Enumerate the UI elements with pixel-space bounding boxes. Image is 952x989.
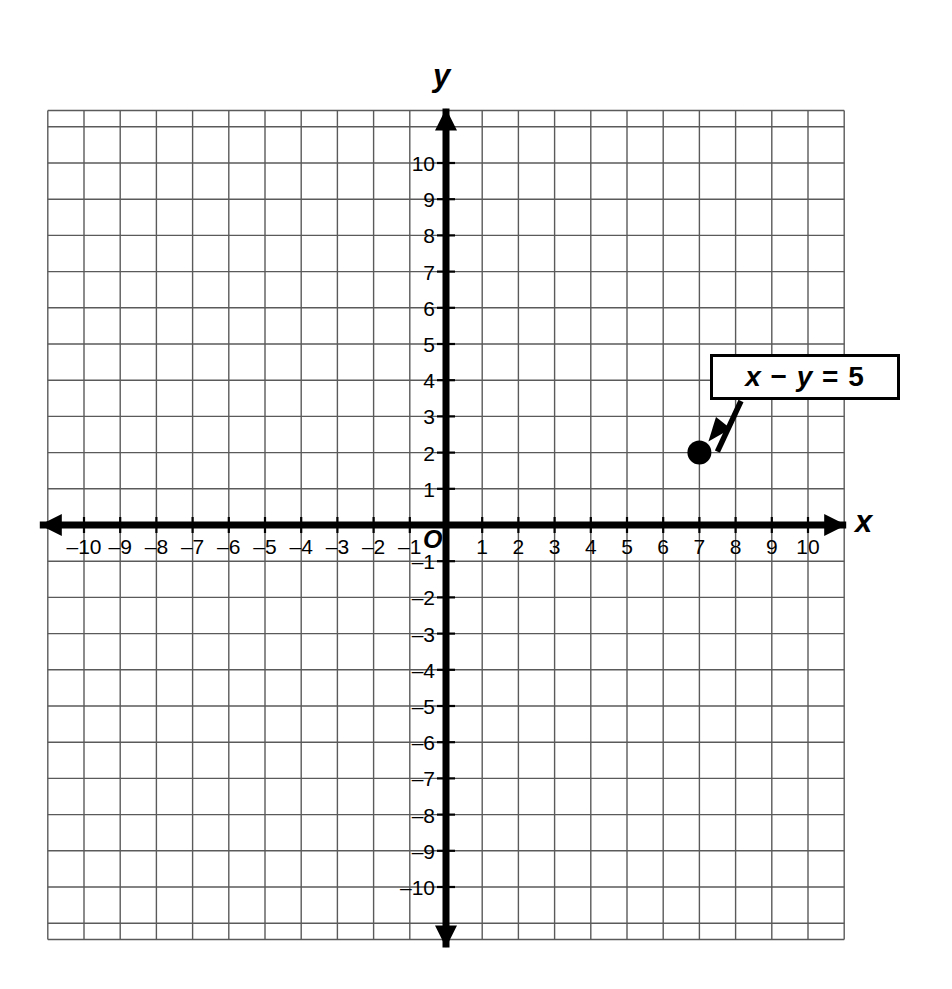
x-tick-label: 3 <box>549 536 561 557</box>
x-tick-label: –10 <box>66 536 101 557</box>
y-tick-label: 6 <box>423 297 435 318</box>
x-tick-label: –4 <box>290 536 313 557</box>
x-axis-label: x <box>855 506 872 537</box>
y-tick-label: –6 <box>412 732 435 753</box>
y-tick-label: 10 <box>412 153 435 174</box>
x-tick-label: 2 <box>513 536 525 557</box>
origin-label: O <box>423 527 442 552</box>
x-tick-label: 5 <box>621 536 633 557</box>
x-tick-label: 4 <box>585 536 597 557</box>
coordinate-grid <box>0 0 952 989</box>
y-tick-label: 2 <box>423 442 435 463</box>
y-tick-label: –10 <box>400 877 435 898</box>
y-tick-label: –1 <box>412 551 435 572</box>
x-tick-label: –8 <box>145 536 168 557</box>
x-tick-label: 10 <box>796 536 819 557</box>
y-tick-label: –8 <box>412 804 435 825</box>
x-tick-label: –5 <box>253 536 276 557</box>
y-tick-label: –2 <box>412 587 435 608</box>
y-tick-label: 9 <box>423 189 435 210</box>
x-tick-label: –7 <box>181 536 204 557</box>
y-tick-label: –9 <box>412 840 435 861</box>
x-tick-label: –3 <box>326 536 349 557</box>
y-tick-label: 4 <box>423 370 435 391</box>
data-points-layer <box>687 441 711 465</box>
y-tick-label: 5 <box>423 334 435 355</box>
y-tick-label: 8 <box>423 225 435 246</box>
equation-callout-box: x − y = 5 <box>710 354 900 400</box>
y-tick-label: –4 <box>412 659 435 680</box>
x-tick-label: 1 <box>476 536 488 557</box>
x-tick-label: 8 <box>730 536 742 557</box>
x-tick-label: –2 <box>362 536 385 557</box>
x-tick-label: 9 <box>766 536 778 557</box>
equation-callout-text: x − y = 5 <box>745 361 865 393</box>
y-tick-label: 7 <box>423 261 435 282</box>
x-tick-label: 7 <box>694 536 706 557</box>
x-tick-label: –6 <box>217 536 240 557</box>
x-tick-label: 6 <box>657 536 669 557</box>
y-tick-label: –5 <box>412 696 435 717</box>
y-tick-label: –7 <box>412 768 435 789</box>
data-point <box>687 441 711 465</box>
y-tick-label: 1 <box>423 478 435 499</box>
y-axis-label: y <box>433 60 450 91</box>
x-tick-label: –9 <box>109 536 132 557</box>
callout-arrow-head <box>708 417 730 442</box>
y-tick-label: –3 <box>412 623 435 644</box>
y-tick-label: 3 <box>423 406 435 427</box>
coordinate-plane-figure: y x –10–9–8–7–6–5–4–3–2–112345678910 109… <box>0 0 952 989</box>
